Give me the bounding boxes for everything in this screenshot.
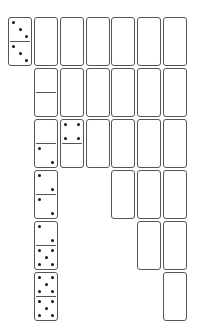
column-6-domino-face-down[interactable] bbox=[163, 272, 187, 321]
column-5-domino-face-down[interactable] bbox=[137, 68, 161, 117]
column-4-domino-face-down[interactable] bbox=[111, 119, 135, 168]
tile-half-bottom bbox=[35, 93, 57, 116]
pip-icon bbox=[64, 123, 67, 126]
tile-half-top bbox=[61, 120, 83, 143]
pip-icon bbox=[51, 161, 54, 164]
pip-icon bbox=[38, 225, 41, 228]
pip-icon bbox=[51, 290, 54, 293]
pip-icon bbox=[38, 147, 41, 150]
column-5-domino-face-down[interactable] bbox=[137, 17, 161, 66]
column-1-domino-face-up[interactable] bbox=[34, 221, 58, 270]
tile-half-top bbox=[35, 171, 57, 194]
tile-half-bottom bbox=[61, 144, 83, 167]
pip-icon bbox=[38, 276, 41, 279]
column-6-domino-face-down[interactable] bbox=[163, 221, 187, 270]
pip-icon bbox=[38, 198, 41, 201]
pip-icon bbox=[64, 137, 67, 140]
column-1-domino-face-up[interactable] bbox=[34, 119, 58, 168]
tile-half-bottom bbox=[35, 297, 57, 320]
pip-icon bbox=[51, 276, 54, 279]
pip-icon bbox=[38, 174, 41, 177]
column-5-domino-face-down[interactable] bbox=[137, 119, 161, 168]
column-6-domino-face-down[interactable] bbox=[163, 68, 187, 117]
pip-icon bbox=[77, 137, 80, 140]
column-2-domino-face-down[interactable] bbox=[60, 17, 84, 66]
column-1-domino-face-up[interactable] bbox=[34, 170, 58, 219]
tile-half-top bbox=[35, 120, 57, 143]
pip-icon bbox=[51, 239, 54, 242]
pip-icon bbox=[45, 256, 48, 259]
pip-icon bbox=[51, 300, 54, 303]
pip-icon bbox=[19, 52, 22, 55]
pip-icon bbox=[38, 314, 41, 317]
column-5-domino-face-down[interactable] bbox=[137, 170, 161, 219]
pip-icon bbox=[19, 28, 22, 31]
column-3-domino-face-down[interactable] bbox=[86, 119, 110, 168]
column-2-domino-face-down[interactable] bbox=[60, 68, 84, 117]
pip-icon bbox=[25, 59, 28, 62]
pip-icon bbox=[38, 300, 41, 303]
tile-half-bottom bbox=[35, 195, 57, 218]
pip-icon bbox=[12, 21, 15, 24]
pip-icon bbox=[45, 283, 48, 286]
pip-icon bbox=[25, 35, 28, 38]
column-6-domino-face-down[interactable] bbox=[163, 17, 187, 66]
pip-icon bbox=[51, 314, 54, 317]
column-2-domino-face-up[interactable] bbox=[60, 119, 84, 168]
column-6-domino-face-down[interactable] bbox=[163, 170, 187, 219]
stock-domino-face-up[interactable] bbox=[8, 17, 32, 66]
pip-icon bbox=[51, 188, 54, 191]
tile-half-top bbox=[9, 18, 31, 41]
tile-half-bottom bbox=[35, 246, 57, 269]
column-5-domino-face-down[interactable] bbox=[137, 221, 161, 270]
pip-icon bbox=[77, 123, 80, 126]
pip-icon bbox=[38, 290, 41, 293]
column-1-domino-face-up[interactable] bbox=[34, 272, 58, 321]
tile-half-bottom bbox=[9, 42, 31, 65]
pip-icon bbox=[38, 263, 41, 266]
column-4-domino-face-down[interactable] bbox=[111, 17, 135, 66]
pip-icon bbox=[51, 263, 54, 266]
column-4-domino-face-down[interactable] bbox=[111, 68, 135, 117]
column-3-domino-face-down[interactable] bbox=[86, 17, 110, 66]
column-1-domino-face-down[interactable] bbox=[34, 17, 58, 66]
pip-icon bbox=[12, 45, 15, 48]
tile-half-bottom bbox=[35, 144, 57, 167]
pip-icon bbox=[45, 307, 48, 310]
column-6-domino-face-down[interactable] bbox=[163, 119, 187, 168]
tile-half-top bbox=[35, 273, 57, 296]
tile-half-top bbox=[35, 222, 57, 245]
pip-icon bbox=[38, 249, 41, 252]
column-1-domino-face-up[interactable] bbox=[34, 68, 58, 117]
pip-icon bbox=[51, 212, 54, 215]
tile-half-top bbox=[35, 69, 57, 92]
column-4-domino-face-down[interactable] bbox=[111, 170, 135, 219]
pip-icon bbox=[51, 249, 54, 252]
column-3-domino-face-down[interactable] bbox=[86, 68, 110, 117]
